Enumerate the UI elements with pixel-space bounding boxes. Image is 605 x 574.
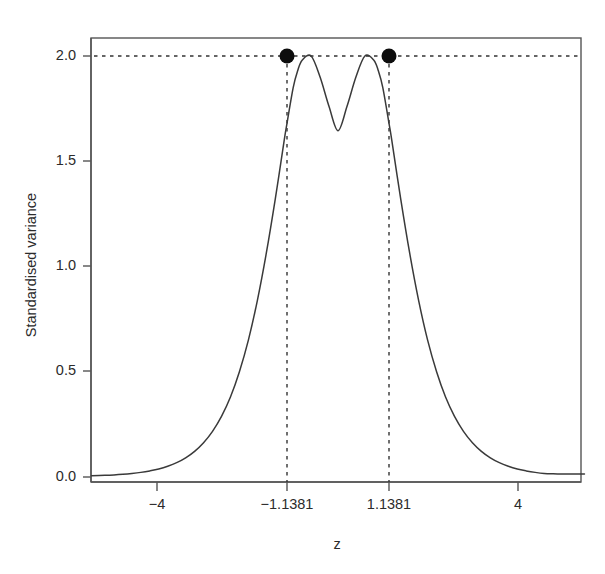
x-tick-label-pos4: 4: [514, 496, 522, 512]
peak-marker-0: [280, 49, 295, 64]
y-tick-label-0-0: 0.0: [56, 468, 76, 484]
y-tick-label-1-0: 1.0: [56, 257, 76, 273]
y-tick-label-0-5: 0.5: [56, 362, 76, 378]
y-tick-label-2-0: 2.0: [56, 47, 76, 63]
x-axis-title: z: [333, 536, 340, 552]
x-tick-label-pos1-1381: 1.1381: [367, 496, 411, 512]
y-tick-label-1-5: 1.5: [56, 152, 76, 168]
standardised-variance-chart: 2.0 1.5 1.0 0.5 0.0 −4 −1.1381 1.1381 4 …: [0, 0, 605, 574]
peak-marker-1: [382, 49, 397, 64]
y-axis-title: Standardised variance: [23, 193, 39, 337]
x-tick-label-neg1-1381: −1.1381: [261, 496, 314, 512]
x-tick-label-neg4: −4: [149, 496, 166, 512]
